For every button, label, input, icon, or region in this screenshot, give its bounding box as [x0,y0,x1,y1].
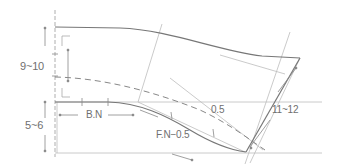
label-offset: 0.5 [211,105,224,115]
top-curve [55,27,300,58]
top-chord-guide [220,55,285,74]
left-diagonal-guide-lower [138,102,245,152]
label-back-neck: B.N [86,110,102,120]
left-diagonal-guide [138,24,162,102]
dim-side [278,68,296,92]
tick [171,112,172,119]
dim-fn-upper [140,110,158,117]
tick [213,129,214,137]
label-upper-height: 9~10 [20,61,44,72]
dim-fn-lower [172,154,192,160]
top-guide-line [55,27,300,58]
label-front-neck: F.N−0.5 [156,130,189,140]
corner-mark-top [62,36,70,46]
label-side-length: 11~12 [272,105,298,115]
corner-mark-bottom [62,88,70,97]
label-lower-height: 5~6 [25,120,43,131]
dim-side-lower [250,120,270,147]
